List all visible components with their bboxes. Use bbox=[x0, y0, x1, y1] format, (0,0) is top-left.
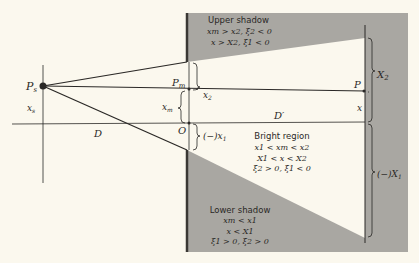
svg-text:Lower shadow: Lower shadow bbox=[210, 205, 271, 215]
svg-text:xm > x2, ξ2 < 0: xm > x2, ξ2 < 0 bbox=[207, 27, 272, 36]
svg-text:Upper shadow: Upper shadow bbox=[208, 15, 269, 25]
label-D: D bbox=[93, 128, 102, 139]
svg-text:x < X1: x < X1 bbox=[226, 227, 253, 236]
svg-text:x > X2, ξ1 < 0: x > X2, ξ1 < 0 bbox=[211, 38, 270, 47]
label-Ps: Ps bbox=[25, 80, 37, 94]
label-xs: xs bbox=[27, 103, 35, 114]
ray-upper-edge bbox=[43, 62, 187, 86]
label-Dprime: D′ bbox=[273, 110, 285, 121]
source-point bbox=[40, 83, 47, 90]
point-P bbox=[363, 90, 366, 93]
point-O bbox=[188, 122, 191, 125]
svg-text:ξ2 > 0, ξ1 < 0: ξ2 > 0, ξ1 < 0 bbox=[253, 164, 311, 173]
label-x: x bbox=[357, 103, 362, 113]
label-P: P bbox=[353, 79, 361, 90]
svg-text:Bright region: Bright region bbox=[254, 131, 309, 141]
diffraction-geometry-diagram: Ps xs D D′ Pm O xm x2 (−)x1 P x X2 (−)X1… bbox=[0, 0, 419, 263]
svg-text:xm < x1: xm < x1 bbox=[223, 216, 257, 225]
ray-lower-edge bbox=[43, 86, 187, 150]
svg-text:X1 < x < X2: X1 < x < X2 bbox=[256, 154, 307, 163]
point-Pm bbox=[188, 88, 191, 91]
svg-text:x1 < xm < x2: x1 < xm < x2 bbox=[255, 143, 310, 152]
label-xm: xm bbox=[162, 102, 173, 113]
brace-xm bbox=[178, 91, 185, 123]
svg-text:ξ1 > 0, ξ2 > 0: ξ1 > 0, ξ2 > 0 bbox=[211, 237, 269, 246]
upper-shadow-text: Upper shadow xm > x2, ξ2 < 0 x > X2, ξ1 … bbox=[207, 15, 272, 47]
label-O: O bbox=[178, 125, 186, 136]
